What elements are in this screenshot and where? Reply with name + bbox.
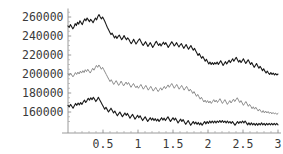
x-tick-label: 1 [135,137,142,151]
chart-container: 160000180000200000220000240000260000 0.5… [0,0,283,154]
line-chart: 160000180000200000220000240000260000 0.5… [0,0,283,154]
x-axis-tick-labels: 0.511.522.53 [93,137,282,151]
y-tick-label: 160000 [22,105,64,119]
y-tick-label: 180000 [22,86,64,100]
x-tick-label: 0.5 [93,137,114,151]
y-axis-tick-labels: 160000180000200000220000240000260000 [22,10,64,119]
y-tick-label: 240000 [22,29,64,43]
y-tick-label: 260000 [22,10,64,24]
x-tick-label: 2 [205,137,212,151]
x-tick-label: 2.5 [233,137,254,151]
series-paths [68,15,278,126]
series-lower-path [68,97,278,125]
y-tick-label: 220000 [22,48,64,62]
series-middle-path [68,65,278,114]
x-tick-label: 3 [275,137,282,151]
axes-lines [62,9,281,134]
x-tick-label: 1.5 [163,137,184,151]
y-tick-label: 200000 [22,67,64,81]
